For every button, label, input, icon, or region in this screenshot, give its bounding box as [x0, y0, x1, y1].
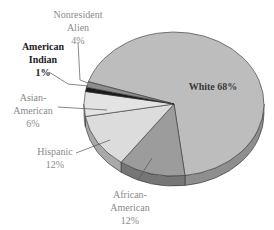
label-text: White 68% — [189, 81, 238, 92]
label-line: Hispanic — [30, 145, 80, 158]
label-value: 12% — [30, 158, 80, 171]
label-african-american: African- American 12% — [102, 188, 158, 227]
pie-slices — [84, 32, 264, 176]
label-white: White 68% — [178, 80, 248, 93]
leader-nonresident — [78, 42, 88, 83]
label-american-indian: American Indian 1% — [14, 40, 72, 79]
label-value: 6% — [8, 117, 58, 130]
label-asian-american: Asian- American 6% — [8, 91, 58, 130]
label-line: American — [102, 201, 158, 214]
label-line: Indian — [14, 53, 72, 66]
label-line: African- — [102, 188, 158, 201]
label-hispanic: Hispanic 12% — [30, 145, 80, 171]
label-line: Nonresident — [42, 8, 114, 21]
label-value: 1% — [14, 66, 72, 79]
label-line: American — [8, 104, 58, 117]
label-line: American — [14, 40, 72, 53]
label-line: Asian- — [8, 91, 58, 104]
label-line: Alien — [42, 21, 114, 34]
label-value: 12% — [102, 214, 158, 227]
